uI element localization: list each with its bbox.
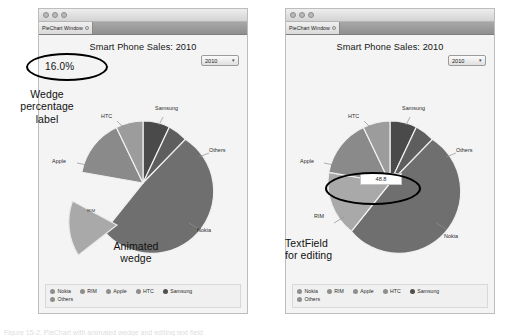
wedge-label-htc: HTC: [101, 113, 112, 119]
tab-label: PieChart Window: [42, 25, 83, 31]
legend-label-samsung: Samsung: [170, 288, 192, 294]
maximize-icon[interactable]: [61, 12, 67, 18]
wedge-label-htc: HTC: [348, 113, 359, 119]
legend-dot-icon-samsung: [163, 289, 168, 294]
annotation-line-1: TextField: [285, 237, 377, 249]
chevron-down-icon: ▾: [479, 58, 482, 63]
legend-dot-icon-htc: [136, 289, 141, 294]
legend-dot-icon-others: [297, 297, 302, 302]
window-titlebar: [286, 9, 494, 22]
chart-title: Smart Phone Sales: 2010: [286, 35, 494, 52]
annotation-line-1: Wedge: [4, 88, 90, 100]
legend-label-rim: RIM: [334, 288, 344, 294]
legend-label-nokia: Nokia: [305, 288, 318, 294]
legend-label-htc: HTC: [143, 288, 154, 294]
chevron-down-icon: ▾: [232, 58, 235, 63]
callout-ellipse-textfield: [325, 172, 421, 205]
callout-percentage-text: 16.0%: [45, 61, 74, 72]
legend-dot-icon-apple: [353, 289, 358, 294]
annotation-wedge-percentage-label: Wedge percentage label: [4, 88, 90, 125]
annotation-line-2: for editing: [285, 249, 377, 261]
app-window-right: PieChart Window Smart Phone Sales: 2010 …: [285, 8, 495, 314]
tab-piechart-window[interactable]: PieChart Window: [286, 22, 340, 34]
figure-caption: Figure 15-2. PieChart with animated wedg…: [4, 329, 203, 336]
wedge-label-others: Others: [456, 147, 472, 153]
legend-dot-icon-samsung: [410, 289, 415, 294]
window-tabstrip: PieChart Window: [39, 22, 247, 35]
tab-piechart-window[interactable]: PieChart Window: [39, 22, 93, 34]
legend-label-htc: HTC: [390, 288, 401, 294]
annotation-textfield-for-editing: TextField for editing: [285, 237, 377, 262]
pie-svg-right: [286, 65, 494, 265]
legend-dot-icon-rim: [327, 289, 332, 294]
legend-item-nokia[interactable]: Nokia: [297, 288, 318, 294]
wedge-label-rim: RIM: [87, 208, 95, 213]
legend-label-apple: Apple: [360, 288, 373, 294]
legend-dot-icon-htc: [383, 289, 388, 294]
legend-dot-icon-nokia: [297, 289, 302, 294]
legend-item-samsung[interactable]: Samsung: [163, 288, 192, 294]
legend-label-others: Others: [58, 296, 74, 302]
minimize-icon[interactable]: [299, 12, 305, 18]
legend-item-samsung[interactable]: Samsung: [410, 288, 439, 294]
annotation-line-3: label: [4, 113, 90, 125]
annotation-line-1: Animated: [96, 240, 176, 252]
legend-item-htc[interactable]: HTC: [136, 288, 154, 294]
legend-label-rim: RIM: [87, 288, 97, 294]
wedge-label-rim: RIM: [314, 213, 324, 219]
wedge-label-nokia: Nokia: [444, 233, 458, 239]
legend-right: Nokia RIM Apple HTC Samsung: [292, 284, 488, 308]
legend-item-rim[interactable]: RIM: [327, 288, 344, 294]
legend-label-apple: Apple: [113, 288, 126, 294]
legend-item-rim[interactable]: RIM: [80, 288, 97, 294]
legend-item-htc[interactable]: HTC: [383, 288, 401, 294]
wedge-label-others: Others: [209, 147, 225, 153]
annotation-animated-wedge: Animated wedge: [96, 240, 176, 265]
legend-dot-icon-apple: [106, 289, 111, 294]
legend-dot-icon-rim: [80, 289, 85, 294]
panel-right: PieChart Window Smart Phone Sales: 2010 …: [253, 0, 505, 322]
tab-close-icon[interactable]: [332, 26, 336, 30]
year-dropdown-value: 2010: [452, 58, 464, 64]
panel-left: PieChart Window Smart Phone Sales: 2010 …: [0, 0, 252, 322]
wedge-label-samsung: Samsung: [402, 105, 425, 111]
wedge-label-apple: Apple: [300, 158, 314, 164]
legend-dot-icon-others: [50, 297, 55, 302]
legend-item-apple[interactable]: Apple: [106, 288, 127, 294]
window-tabstrip: PieChart Window: [286, 22, 494, 35]
maximize-icon[interactable]: [308, 12, 314, 18]
window-titlebar: [39, 9, 247, 22]
legend-item-apple[interactable]: Apple: [353, 288, 374, 294]
chart-title: Smart Phone Sales: 2010: [39, 35, 247, 52]
wedge-label-apple: Apple: [52, 158, 66, 164]
legend-label-samsung: Samsung: [417, 288, 439, 294]
close-icon[interactable]: [43, 12, 49, 18]
close-icon[interactable]: [290, 12, 296, 18]
legend-left: Nokia RIM Apple HTC Samsung: [45, 284, 241, 308]
annotation-line-2: wedge: [96, 252, 176, 264]
wedge-label-nokia: Nokia: [197, 227, 211, 233]
annotation-line-2: percentage: [4, 100, 90, 112]
tab-close-icon[interactable]: [85, 26, 89, 30]
tab-label: PieChart Window: [289, 25, 330, 31]
minimize-icon[interactable]: [52, 12, 58, 18]
legend-item-others[interactable]: Others: [297, 296, 474, 302]
legend-dot-icon-nokia: [50, 289, 55, 294]
year-dropdown-value: 2010: [205, 58, 217, 64]
legend-label-nokia: Nokia: [58, 288, 71, 294]
legend-label-others: Others: [305, 296, 321, 302]
pie-chart-right: Samsung HTC Others Apple Nokia RIM 48.8: [286, 65, 494, 265]
wedge-label-samsung: Samsung: [155, 105, 178, 111]
legend-item-others[interactable]: Others: [50, 296, 227, 302]
legend-item-nokia[interactable]: Nokia: [50, 288, 71, 294]
